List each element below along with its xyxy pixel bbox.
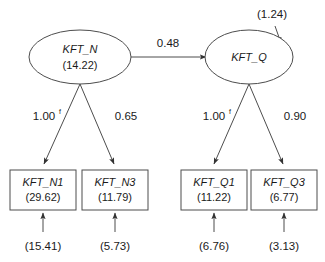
- residual-value-kftq3: (3.13): [269, 240, 299, 252]
- observed-node-kftn1-label: KFT_N1: [23, 176, 64, 188]
- diagram-canvas: 0.48 (1.24) 1.00 f 0.65 1.00 f 0.90 KFT_…: [0, 0, 325, 262]
- observed-node-kftq3-label: KFT_Q3: [263, 176, 305, 188]
- loading-coefficient-q1: 1.00: [203, 110, 225, 122]
- observed-node-kftq3-value: (6.77): [270, 191, 299, 203]
- loading-arrow-kftn-n3: [80, 84, 114, 164]
- loading-arrow-kftn-n1: [44, 84, 80, 164]
- loading-fixed-marker-q1: f: [229, 108, 231, 115]
- loading-arrow-kftq-q3: [249, 84, 283, 164]
- observed-node-kftn3-label: KFT_N3: [95, 176, 137, 188]
- observed-node-kftq1-value: (11.22): [197, 191, 231, 203]
- loading-arrow-kftq-q1: [214, 84, 249, 164]
- sem-path-diagram: 0.48 (1.24) 1.00 f 0.65 1.00 f 0.90 KFT_…: [0, 0, 325, 262]
- loading-coefficient-q3: 0.90: [284, 110, 306, 122]
- residual-value-kftq1: (6.76): [199, 240, 229, 252]
- observed-node-kftn1-value: (29.62): [26, 191, 61, 203]
- latent-node-kftn: [29, 30, 131, 84]
- observed-node-kftn3-value: (11.79): [98, 191, 132, 203]
- residual-value-kftn1: (15.41): [25, 240, 62, 252]
- latent-node-kftn-label: KFT_N: [63, 43, 98, 55]
- residual-value-kftn3: (5.73): [100, 240, 130, 252]
- loading-coefficient-n3: 0.65: [115, 110, 137, 122]
- observed-node-kftq1-label: KFT_Q1: [193, 176, 235, 188]
- loading-coefficient-n1: 1.00: [33, 110, 55, 122]
- path-coefficient-kftn-kftq: 0.48: [157, 37, 179, 49]
- loading-fixed-marker-n1: f: [59, 108, 61, 115]
- disturbance-value-kftq: (1.24): [257, 8, 287, 20]
- latent-node-kftq-label: KFT_Q: [231, 51, 267, 63]
- latent-node-kftn-value: (14.22): [63, 59, 98, 71]
